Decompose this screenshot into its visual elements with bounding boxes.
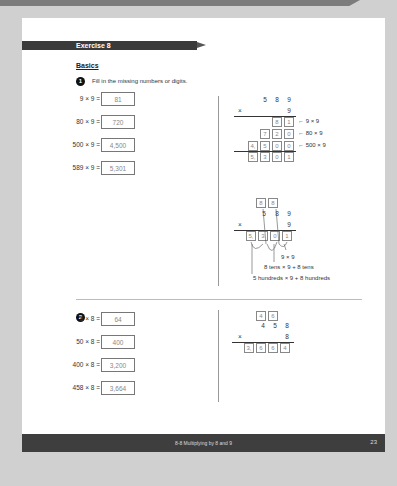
multiplicand-digit: 5 — [270, 322, 280, 329]
footer-title: 8-8 Multiplying by 8 and 9 — [22, 440, 385, 446]
step-note: 5 hundreds × 9 + 8 hundreds — [253, 275, 330, 281]
page-number: 23 — [370, 439, 377, 445]
answer-box[interactable]: 3,664 — [101, 381, 135, 395]
workbook-page: Exercise 8 Basics 1 Fill in the missing … — [22, 18, 385, 434]
carry-cell[interactable]: 4 — [256, 311, 266, 321]
multiplicand-digit: 8 — [282, 322, 292, 329]
equation-row: 8 × 8 = — [22, 312, 100, 326]
equation-expression: 8 × 8 = — [80, 315, 100, 322]
multiplicand-digit: 4 — [258, 322, 268, 329]
question-separator — [76, 299, 362, 300]
step-note: 9 × 9 — [281, 254, 295, 260]
answer-box[interactable]: 400 — [101, 335, 135, 349]
equation-expression: 458 × 8 = — [73, 384, 100, 391]
page-footer: 8-8 Multiplying by 8 and 9 23 — [22, 434, 385, 452]
chapter-banner — [0, 0, 360, 6]
equation-expression: 400 × 8 = — [73, 361, 100, 368]
multiplier-digit: 8 — [282, 333, 292, 340]
carry-cell[interactable]: 6 — [268, 311, 278, 321]
equation-row: 50 × 8 = — [22, 335, 100, 349]
equation-expression: 50 × 8 = — [76, 338, 100, 345]
digit-cell[interactable]: 6 — [268, 343, 278, 353]
equation-row: 458 × 8 = — [22, 381, 100, 395]
answer-box[interactable]: 3,200 — [101, 358, 135, 372]
equation-row: 400 × 8 = — [22, 358, 100, 372]
column-divider — [218, 310, 219, 402]
digit-cell[interactable]: 3, — [244, 343, 254, 353]
digit-cell[interactable]: 4 — [280, 343, 290, 353]
answer-box[interactable]: 64 — [101, 312, 135, 326]
times-sign: × — [235, 333, 245, 340]
digit-cell[interactable]: 6 — [256, 343, 266, 353]
step-note: 8 tens × 9 + 8 tens — [264, 264, 314, 270]
